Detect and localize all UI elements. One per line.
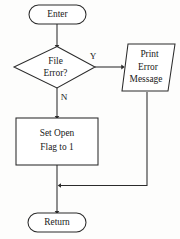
- edge-label-no: N: [61, 92, 68, 102]
- io-print-error-message-line2: Error: [138, 62, 159, 72]
- terminator-return-label: Return: [44, 217, 70, 227]
- decision-file-error-label-line2: Error?: [44, 68, 68, 78]
- decision-file-error-label-line1: File: [48, 56, 63, 66]
- flowchart-canvas: Enter File Error? Y N Print Error Messag…: [0, 0, 180, 239]
- process-set-open-flag-line1: Set Open: [40, 128, 75, 138]
- edge-label-yes: Y: [90, 51, 97, 61]
- io-print-error-message-line1: Print: [140, 49, 159, 59]
- io-print-error-message-line3: Message: [130, 74, 163, 84]
- flowchart-svg: Enter File Error? Y N Print Error Messag…: [0, 0, 180, 239]
- process-set-open-flag-line2: Flag to 1: [40, 142, 74, 152]
- terminator-enter-label: Enter: [47, 9, 68, 19]
